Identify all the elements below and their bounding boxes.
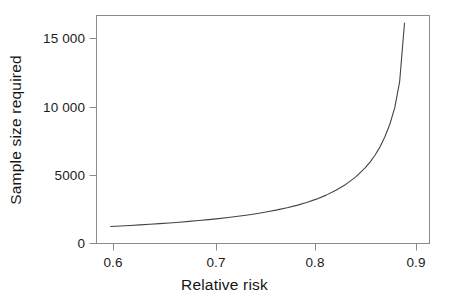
y-axis-title: Sample size required [7, 55, 25, 205]
y-tick-label-1: 5000 [55, 168, 85, 183]
x-tick-label-0: 0.6 [103, 255, 122, 270]
x-tick-label-2: 0.8 [305, 255, 324, 270]
plot-frame [97, 16, 430, 244]
series-line-sample-size [111, 23, 405, 227]
y-tick-label-0: 0 [77, 236, 85, 251]
y-axis-title-wrapper: Sample size required [2, 0, 30, 260]
plot-border [97, 16, 430, 244]
chart-figure: 0500010 00015 000 0.60.70.80.9 Sample si… [0, 0, 449, 306]
axis-ticks [90, 39, 417, 251]
data-curve [111, 23, 405, 227]
x-axis-title: Relative risk [0, 276, 449, 294]
x-tick-label-1: 0.7 [206, 255, 225, 270]
x-tick-label-3: 0.9 [406, 255, 425, 270]
y-tick-label-3: 15 000 [43, 31, 85, 46]
y-tick-label-2: 10 000 [43, 100, 85, 115]
